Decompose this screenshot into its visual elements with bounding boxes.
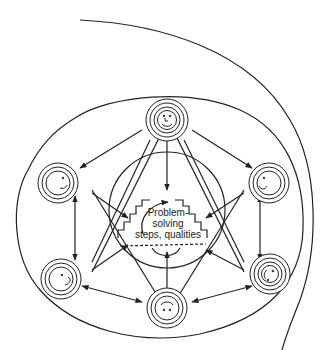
node-bottom <box>147 288 187 328</box>
center-label-line3: steps, qualities <box>128 229 208 240</box>
node-upper-right <box>249 163 289 203</box>
dashed-baseline <box>120 244 206 246</box>
node-lower-left <box>41 259 81 299</box>
node-upper-left <box>38 163 78 203</box>
node-lower-right <box>250 254 290 294</box>
node-top <box>146 99 188 141</box>
center-label-line2: solving <box>146 218 190 229</box>
problem-solving-network-diagram <box>0 0 333 350</box>
center-label-line1: Problem- <box>146 207 190 218</box>
